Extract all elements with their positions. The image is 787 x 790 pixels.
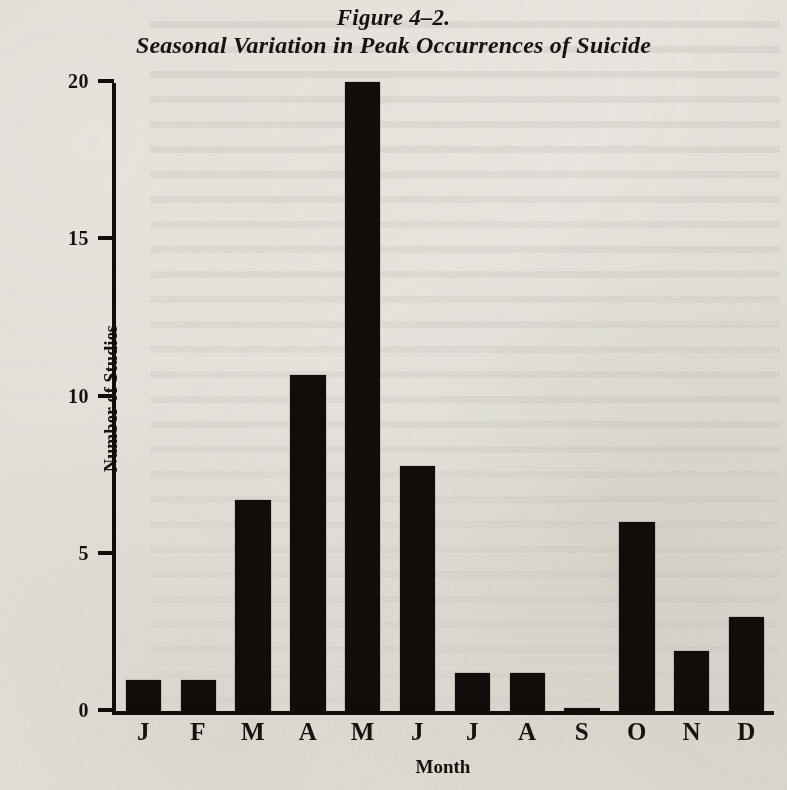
x-axis-title: Month	[112, 756, 774, 778]
y-tick-label-5: 5	[79, 541, 90, 564]
x-tick-label-march: M	[226, 718, 281, 746]
y-tick-label-20: 20	[68, 70, 89, 93]
y-tick-label-0: 0	[79, 699, 90, 722]
x-tick-label-february: F	[171, 718, 226, 746]
bar-january	[126, 680, 161, 711]
y-tick-15: 15	[98, 236, 114, 240]
bar-june	[400, 466, 435, 711]
x-tick-label-january: J	[116, 718, 171, 746]
x-tick-label-december: D	[719, 718, 774, 746]
x-tick-label-october: O	[610, 718, 665, 746]
y-tick-20: 20	[98, 79, 114, 83]
plot-area: 05101520	[112, 83, 774, 713]
y-tick-label-15: 15	[68, 227, 89, 250]
bar-november	[674, 651, 709, 711]
bar-may	[345, 82, 380, 711]
bar-december	[729, 617, 764, 711]
figure-number: Figure 4–2.	[0, 4, 787, 31]
x-tick-label-april: A	[281, 718, 336, 746]
x-tick-label-september: S	[555, 718, 610, 746]
bar-series	[116, 83, 774, 712]
bar-july	[455, 673, 490, 711]
x-axis-tick-labels: JFMAMJJASOND	[116, 718, 774, 752]
y-tick-0: 0	[98, 708, 114, 712]
y-tick-5: 5	[98, 551, 114, 555]
x-tick-label-november: N	[664, 718, 719, 746]
bar-august	[510, 673, 545, 711]
bar-october	[619, 522, 654, 711]
x-tick-label-may: M	[335, 718, 390, 746]
x-tick-label-july: J	[445, 718, 500, 746]
x-tick-label-june: J	[390, 718, 445, 746]
x-tick-label-august: A	[500, 718, 555, 746]
figure-title: Figure 4–2. Seasonal Variation in Peak O…	[0, 4, 787, 59]
figure-caption: Seasonal Variation in Peak Occurrences o…	[0, 31, 787, 59]
y-tick-10: 10	[98, 394, 114, 398]
figure-page: Figure 4–2. Seasonal Variation in Peak O…	[0, 0, 787, 790]
bar-april	[290, 375, 325, 712]
bar-march	[235, 500, 270, 711]
bar-september	[564, 708, 599, 711]
bar-february	[181, 680, 216, 711]
y-tick-label-10: 10	[68, 384, 89, 407]
